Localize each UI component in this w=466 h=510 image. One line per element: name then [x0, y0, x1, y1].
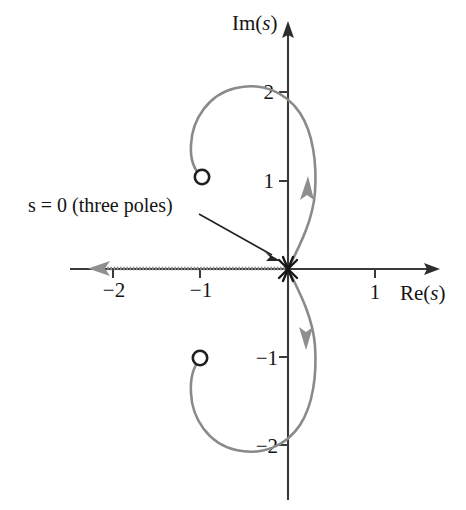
locus-lower-arrow-icon — [299, 327, 313, 350]
xtick-label-pos1: 1 — [370, 280, 381, 304]
root-locus-svg: −2 −1 1 2 1 −1 −2 Im(s) Re(s) — [0, 0, 466, 510]
re-label-suffix: ) — [439, 281, 446, 305]
pole-annotation: s = 0 (three poles) — [28, 194, 281, 261]
zero-upper-marker-icon — [195, 170, 209, 184]
root-locus-figure: −2 −1 1 2 1 −1 −2 Im(s) Re(s) — [0, 0, 466, 510]
locus-branch-real-axis — [88, 261, 288, 276]
pole-annotation-var: s — [28, 194, 36, 216]
imaginary-axis-label: Im(s) — [232, 11, 278, 35]
axis-group — [70, 21, 440, 500]
xtick-label-minus1: −1 — [190, 278, 212, 302]
re-label-prefix: Re( — [400, 281, 430, 305]
re-label-var: s — [430, 281, 438, 305]
ytick-label-pos2: 2 — [264, 80, 275, 104]
im-label-var: s — [262, 11, 270, 35]
locus-upper-arrow-icon — [300, 176, 314, 200]
pole-annotation-leader-line — [199, 214, 272, 255]
im-label-prefix: Im( — [232, 11, 262, 35]
xtick-label-minus2: −2 — [103, 278, 125, 302]
ytick-label-pos1: 1 — [264, 169, 275, 193]
ytick-label-neg1: −1 — [256, 346, 278, 370]
real-axis-label: Re(s) — [400, 281, 446, 305]
im-label-suffix: ) — [271, 11, 278, 35]
zero-lower-marker-icon — [193, 351, 207, 365]
pole-annotation-rest: = 0 (three poles) — [36, 194, 173, 217]
pole-annotation-label: s = 0 (three poles) — [28, 194, 173, 217]
